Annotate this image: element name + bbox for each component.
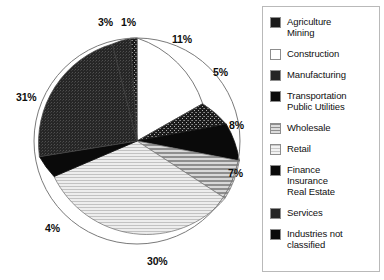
legend-swatch-wholesale-icon — [270, 123, 281, 134]
legend-swatch-agriculture-mining-icon — [270, 17, 281, 28]
legend-label-retail: Retail — [287, 143, 311, 154]
pie-label-30: 30% — [147, 255, 167, 267]
pie-label-11: 11% — [172, 33, 192, 45]
pie-chart-figure: 3% 1% 11% 5% 8% 7% 30% 4% 31% Agricultur… — [0, 0, 384, 280]
legend-label-industries-not-classified: Industries not classified — [287, 228, 375, 251]
chart-legend: Agriculture Mining Construction Manufact… — [262, 6, 380, 272]
pie-label-1: 1% — [121, 16, 136, 28]
pie-chart-plot-area: 3% 1% 11% 5% 8% 7% 30% 4% 31% — [0, 0, 258, 280]
legend-label-manufacturing: Manufacturing — [287, 69, 346, 80]
legend-swatch-construction-icon — [270, 49, 281, 60]
legend-swatch-transportation-icon — [270, 91, 281, 102]
pie-svg — [0, 0, 258, 280]
legend-item-construction: Construction — [270, 48, 375, 60]
legend-item-manufacturing: Manufacturing — [270, 69, 375, 81]
pie-label-3: 3% — [98, 16, 113, 28]
pie-label-5: 5% — [213, 66, 228, 78]
legend-label-agriculture-mining: Agriculture Mining — [287, 16, 331, 39]
legend-item-agriculture-mining: Agriculture Mining — [270, 16, 375, 39]
legend-item-services: Services — [270, 207, 375, 219]
legend-item-industries-not-classified: Industries not classified — [270, 228, 375, 251]
legend-item-transportation-public-utilities: Transportation Public Utilities — [270, 90, 375, 113]
pie-label-4: 4% — [45, 222, 60, 234]
legend-label-transportation-public-utilities: Transportation Public Utilities — [287, 90, 347, 113]
pie-label-8: 8% — [229, 119, 244, 131]
legend-item-finance-insurance-real-estate: Finance Insurance Real Estate — [270, 164, 375, 198]
legend-label-construction: Construction — [287, 48, 339, 59]
legend-label-services: Services — [287, 207, 323, 218]
legend-swatch-finance-icon — [270, 165, 281, 176]
legend-swatch-services-icon — [270, 208, 281, 219]
legend-label-wholesale: Wholesale — [287, 122, 330, 133]
legend-swatch-retail-icon — [270, 144, 281, 155]
pie-label-7: 7% — [228, 167, 243, 179]
pie-label-31: 31% — [16, 91, 36, 103]
legend-item-retail: Retail — [270, 143, 375, 155]
legend-swatch-industries-not-classified-icon — [270, 229, 281, 240]
legend-swatch-manufacturing-icon — [270, 70, 281, 81]
legend-item-wholesale: Wholesale — [270, 122, 375, 134]
legend-label-finance-insurance-real-estate: Finance Insurance Real Estate — [287, 164, 335, 198]
